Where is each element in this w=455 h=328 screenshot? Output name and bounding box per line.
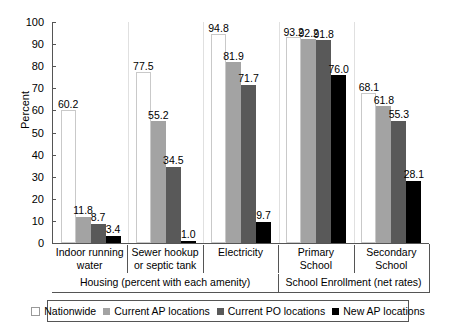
bar: 34.5: [166, 167, 181, 243]
legend-label: Current AP locations: [114, 305, 210, 317]
y-axis-tick-label: 10: [32, 215, 44, 227]
bar-value-label: 76.0: [328, 64, 348, 75]
category-label-line: water: [52, 259, 127, 272]
chart-legend: NationwideCurrent AP locationsCurrent PO…: [47, 300, 409, 322]
y-axis-tick-label: 30: [32, 171, 44, 183]
bar-group: 60.211.88.73.4: [53, 22, 128, 243]
bar: 94.8: [211, 34, 226, 244]
y-axis-tick-label: 90: [32, 38, 44, 50]
bar-value-label: 91.8: [313, 29, 333, 40]
bar-value-label: 71.7: [238, 73, 258, 84]
bar-value-label: 77.5: [133, 61, 153, 72]
bar: 55.2: [151, 121, 166, 243]
y-axis-tick-label: 50: [32, 127, 44, 139]
super-group-label: Housing (percent with each amenity): [52, 274, 278, 292]
bar-value-label: 34.5: [163, 155, 183, 166]
bar: 55.3: [391, 121, 406, 243]
bar: 81.9: [226, 62, 241, 243]
group-separator: [203, 22, 204, 243]
y-axis-tick-label: 20: [32, 193, 44, 205]
legend-swatch-icon: [217, 308, 224, 315]
bar: 77.5: [136, 72, 151, 243]
bar-value-label: 3.4: [106, 224, 121, 235]
plot-area: 60.211.88.73.477.555.234.51.094.881.971.…: [52, 22, 429, 244]
bar-group: 68.161.855.328.1: [354, 22, 429, 243]
category-label-line: School: [354, 259, 429, 272]
bar-groups: 60.211.88.73.477.555.234.51.094.881.971.…: [53, 22, 429, 243]
bar: 61.8: [376, 106, 391, 243]
category-label: SecondarySchool: [354, 244, 429, 274]
bar-value-label: 68.1: [359, 82, 379, 93]
category-label-line: Sewer hookup: [127, 246, 202, 259]
y-axis-tick-label: 0: [38, 237, 44, 249]
bar: 68.1: [361, 93, 376, 244]
bar-value-label: 9.7: [256, 210, 271, 221]
category-label: PrimarySchool: [278, 244, 353, 274]
group-separator: [128, 22, 129, 243]
bar: 28.1: [406, 181, 421, 243]
bar: 3.4: [106, 236, 121, 244]
bar: 60.2: [61, 110, 76, 243]
category-label-line: Secondary: [354, 246, 429, 259]
super-group-label-row: Housing (percent with each amenity)Schoo…: [52, 274, 429, 292]
bar: 93.2: [286, 37, 301, 243]
legend-label: New AP locations: [343, 305, 425, 317]
legend-label: Nationwide: [44, 305, 96, 317]
category-label: Electricity: [203, 244, 278, 274]
group-separator: [354, 22, 355, 243]
bar-value-label: 8.7: [91, 212, 106, 223]
bar-value-label: 81.9: [223, 51, 243, 62]
legend-item[interactable]: New AP locations: [332, 305, 425, 317]
bar-value-label: 94.8: [208, 23, 228, 34]
y-axis-tick-label: 80: [32, 60, 44, 72]
legend-item[interactable]: Nationwide: [31, 305, 96, 317]
y-axis-tick-label: 60: [32, 104, 44, 116]
legend-item[interactable]: Current PO locations: [217, 305, 325, 317]
legend-item[interactable]: Current AP locations: [103, 305, 210, 317]
category-label-row: Indoor runningwaterSewer hookupor septic…: [52, 244, 429, 274]
category-label-line: School: [278, 259, 353, 272]
y-axis-tick-label: 100: [26, 16, 44, 28]
bar-chart: Percent 0102030405060708090100 60.211.88…: [0, 0, 455, 328]
group-separator: [279, 22, 280, 243]
y-axis-tick-label: 70: [32, 82, 44, 94]
category-label-line: Indoor running: [52, 246, 127, 259]
super-group-label: School Enrollment (net rates): [278, 274, 429, 292]
y-axis-tick-label: 40: [32, 149, 44, 161]
category-label-line: Primary: [278, 246, 353, 259]
bar: 8.7: [91, 224, 106, 243]
bar-group: 77.555.234.51.0: [128, 22, 203, 243]
bar: 11.8: [76, 217, 91, 243]
category-label: Sewer hookupor septic tank: [127, 244, 202, 274]
legend-swatch-icon: [103, 308, 110, 315]
bar-value-label: 28.1: [404, 169, 424, 180]
legend-swatch-icon: [31, 307, 40, 316]
bar: 1.0: [181, 241, 196, 243]
category-label-line: or septic tank: [127, 259, 202, 272]
bar: 92.2: [301, 39, 316, 243]
bar: 76.0: [331, 75, 346, 243]
bar-value-label: 61.8: [374, 95, 394, 106]
category-label: Indoor runningwater: [52, 244, 127, 274]
bar-group: 94.881.971.79.7: [203, 22, 278, 243]
y-axis-ticks: 0102030405060708090100: [0, 0, 52, 260]
bar: 71.7: [241, 85, 256, 243]
bar-value-label: 55.2: [148, 110, 168, 121]
bar: 9.7: [256, 222, 271, 243]
category-label-line: Electricity: [203, 246, 278, 259]
legend-label: Current PO locations: [228, 305, 325, 317]
bar-value-label: 60.2: [58, 99, 78, 110]
bar-value-label: 1.0: [181, 229, 196, 240]
bar-value-label: 55.3: [389, 109, 409, 120]
legend-swatch-icon: [332, 308, 339, 315]
bar-group: 93.292.291.876.0: [279, 22, 354, 243]
